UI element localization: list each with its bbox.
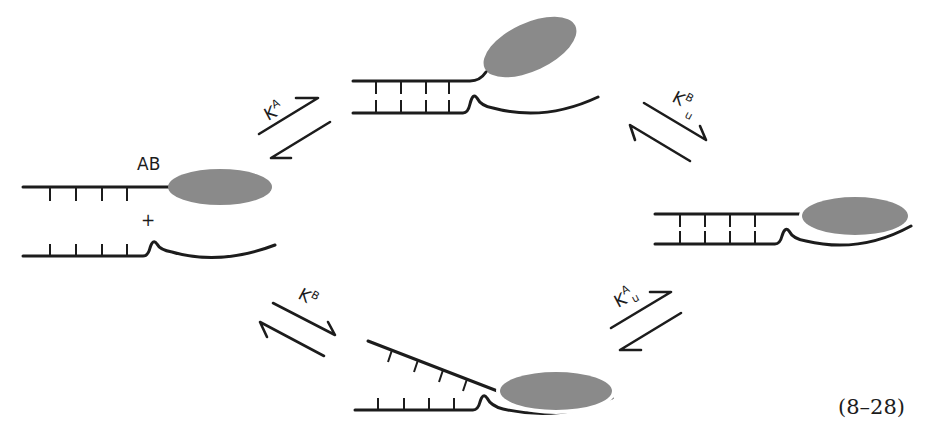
strand-ticks-bottom xyxy=(376,100,449,113)
reverse-arrow-icon xyxy=(271,122,330,158)
strand-ticks-bottom xyxy=(680,231,755,244)
dna-strand xyxy=(353,96,598,113)
strand-ticks-tilted xyxy=(388,350,467,391)
plus-sign: + xyxy=(141,210,155,230)
equilibrium-kub: KB u xyxy=(630,85,706,161)
dna-ticks xyxy=(50,244,127,256)
strand-ticks-top xyxy=(376,81,449,94)
protein-b-domain-tilted xyxy=(475,4,586,90)
ab-label: AB xyxy=(137,154,160,174)
equilibrium-ka: KA xyxy=(259,96,330,158)
protein-a-strand-lifted xyxy=(368,341,500,392)
protein-a-strand xyxy=(353,72,486,81)
protein-b-domain xyxy=(500,372,612,410)
forward-arrow-icon xyxy=(273,303,335,335)
state-a-bound xyxy=(353,4,598,113)
protein-b-domain xyxy=(168,169,272,205)
equation-number: (8–28) xyxy=(838,395,905,419)
svg-text:KB: KB xyxy=(295,283,321,310)
equilibrium-kua: KA u xyxy=(609,282,681,350)
strand-ticks xyxy=(50,187,127,201)
protein-b-domain xyxy=(802,197,908,235)
reverse-arrow-icon xyxy=(260,322,324,356)
dna-strand xyxy=(23,242,275,258)
forward-arrow-icon xyxy=(644,103,706,140)
reverse-arrow-icon xyxy=(630,125,690,161)
state-b-bound xyxy=(355,341,616,414)
binding-equilibria-diagram: AB + KA xyxy=(0,0,935,435)
equilibrium-kb: KB xyxy=(260,283,335,356)
strand-ticks-bottom xyxy=(378,398,454,410)
subscript: u xyxy=(629,291,641,306)
state-ab-bound xyxy=(655,194,911,245)
strand-ticks-top xyxy=(680,214,755,227)
state-free: AB + xyxy=(23,154,275,258)
subscript: u xyxy=(683,108,695,123)
